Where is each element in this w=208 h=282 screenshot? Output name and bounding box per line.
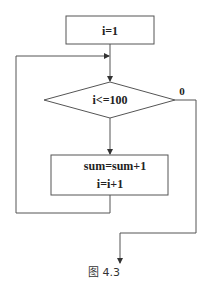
body-line-1: sum=sum+1: [84, 159, 146, 173]
body-return-line: [16, 195, 110, 213]
body-line-2: i=i+1: [97, 177, 123, 191]
init-label: i=1: [102, 24, 118, 38]
false-branch-label: 0: [179, 85, 185, 97]
decision-label: i<=100: [92, 93, 127, 107]
body-box: sum=sum+1 i=i+1: [51, 155, 168, 195]
figure-caption: 图 4.3: [88, 266, 120, 279]
init-box: i=1: [66, 16, 154, 44]
flowchart: i=1 i<=100 0 sum=sum+1 i=i+1 图 4.3: [0, 0, 208, 282]
decision-diamond: i<=100: [44, 82, 175, 118]
